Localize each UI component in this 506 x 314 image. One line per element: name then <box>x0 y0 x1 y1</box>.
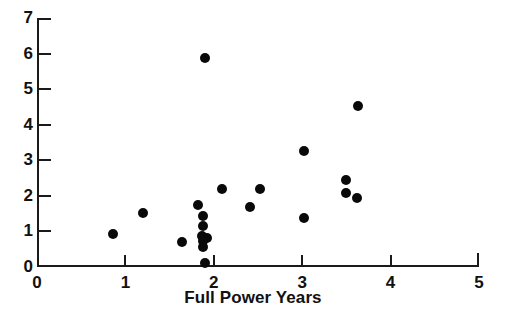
x-axis-tick <box>390 255 392 267</box>
data-point <box>217 184 227 194</box>
data-point <box>352 193 362 203</box>
y-axis-tick-label: 7 <box>13 9 33 26</box>
scatter-chart: 01234567 012345 Full Power Years <box>0 0 506 314</box>
x-axis-tick <box>213 255 215 267</box>
x-axis-right-cap <box>477 253 479 267</box>
plot-area <box>37 18 479 267</box>
data-point <box>177 237 187 247</box>
y-axis-tick-label: 6 <box>13 45 33 62</box>
y-axis-tick-label: 1 <box>13 222 33 239</box>
x-axis-tick <box>301 255 303 267</box>
y-axis-tick <box>39 195 51 197</box>
y-axis-tick-label: 4 <box>13 116 33 133</box>
data-point <box>341 188 351 198</box>
data-point <box>299 213 309 223</box>
x-axis-tick <box>124 255 126 267</box>
y-axis-tick <box>39 53 51 55</box>
y-axis-tick-label: 5 <box>13 80 33 97</box>
data-point <box>255 184 265 194</box>
x-axis-label: Full Power Years <box>0 288 506 308</box>
y-axis-tick-label: 2 <box>13 187 33 204</box>
data-point <box>193 200 203 210</box>
data-point <box>108 229 118 239</box>
y-axis-tick <box>39 88 51 90</box>
y-axis-tick-label: 0 <box>13 258 33 275</box>
data-point <box>299 146 309 156</box>
y-axis-tick <box>39 124 51 126</box>
data-point <box>138 208 148 218</box>
y-axis-tick-label: 3 <box>13 151 33 168</box>
y-axis-tick <box>39 159 51 161</box>
y-axis-tick <box>39 230 51 232</box>
y-axis-top-cap <box>37 18 51 20</box>
